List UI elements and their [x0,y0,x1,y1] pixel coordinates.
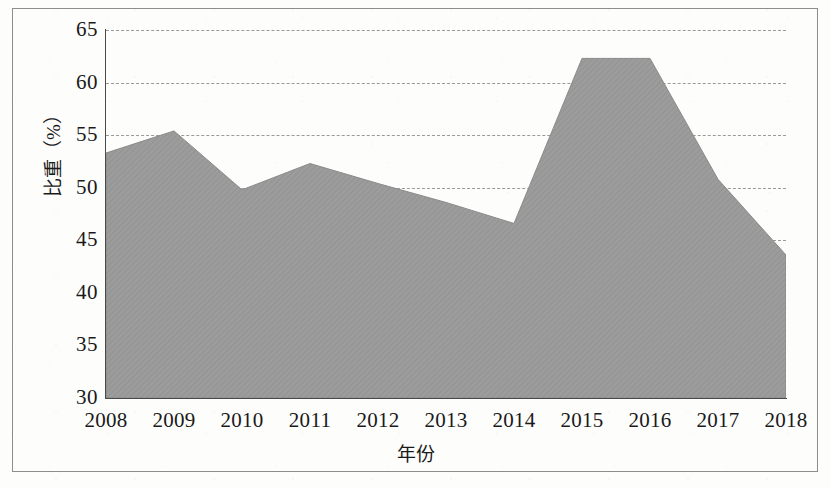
x-tick-label: 2016 [615,408,685,432]
x-tick-label: 2008 [71,408,141,432]
area-polygon [106,58,786,398]
x-tick-label: 2013 [411,408,481,432]
x-tick-label: 2012 [343,408,413,432]
x-tick-label: 2014 [479,408,549,432]
x-axis-title: 年份 [0,444,831,466]
y-tick-label: 65 [52,19,98,40]
x-tick-label: 2018 [751,408,821,432]
x-tick-label: 2010 [207,408,277,432]
x-tick-label: 2015 [547,408,617,432]
y-tick-label: 30 [52,387,98,408]
y-axis-tick-labels: 3035404550556065 [40,30,98,398]
x-tick-label: 2017 [683,408,753,432]
y-tick-label: 40 [52,282,98,303]
y-tick-label: 35 [52,334,98,355]
y-tick-label: 50 [52,177,98,198]
area-series [106,30,786,398]
chart-figure: 比重（%） 3035404550556065 20082009201020112… [0,0,831,488]
x-tick-label: 2011 [275,408,345,432]
y-tick-label: 55 [52,124,98,145]
x-axis-tick-labels: 2008200920102011201220132014201520162017… [106,408,786,436]
y-tick-label: 45 [52,229,98,250]
plot-area [106,30,786,398]
x-tick-label: 2009 [139,408,209,432]
x-axis-line [105,398,787,399]
y-tick-label: 60 [52,72,98,93]
